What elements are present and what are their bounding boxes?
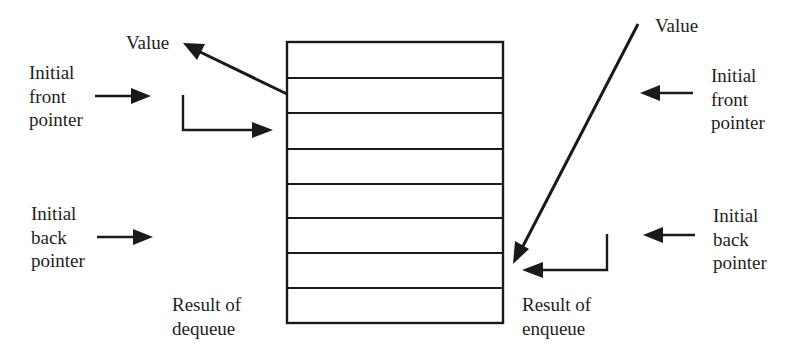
- queue-outline: [287, 42, 503, 323]
- enqueue-value-arrow: [513, 24, 638, 264]
- enqueue-value-label: Value: [655, 14, 698, 38]
- arrowhead-icon: [522, 262, 543, 278]
- left-back-pointer-label: Initial back pointer: [31, 202, 85, 273]
- arrowhead-icon: [513, 241, 529, 264]
- left-back-pointer-arrow: [97, 229, 153, 245]
- queue-array: [287, 42, 503, 323]
- enqueue-result-arrow: [522, 234, 607, 278]
- left-front-pointer-label: Initial front pointer: [29, 61, 83, 132]
- queue-diagram: [0, 0, 803, 357]
- left-front-pointer-arrow: [95, 88, 151, 104]
- right-front-pointer-label: Initial front pointer: [711, 64, 765, 135]
- right-back-pointer-arrow: [643, 227, 695, 243]
- dequeue-value-label: Value: [126, 31, 169, 55]
- arrowhead-icon: [133, 229, 153, 245]
- arrowhead-icon: [131, 88, 151, 104]
- dequeue-value-arrow: [183, 43, 287, 94]
- arrowhead-icon: [643, 227, 663, 243]
- right-back-pointer-label: Initial back pointer: [713, 204, 767, 275]
- right-front-pointer-arrow: [640, 85, 693, 101]
- dequeue-result-label: Result of dequeue: [172, 293, 241, 340]
- enqueue-result-label: Result of enqueue: [522, 293, 591, 340]
- arrowhead-icon: [640, 85, 660, 101]
- dequeue-result-arrow: [183, 95, 273, 138]
- arrowhead-icon: [252, 122, 273, 138]
